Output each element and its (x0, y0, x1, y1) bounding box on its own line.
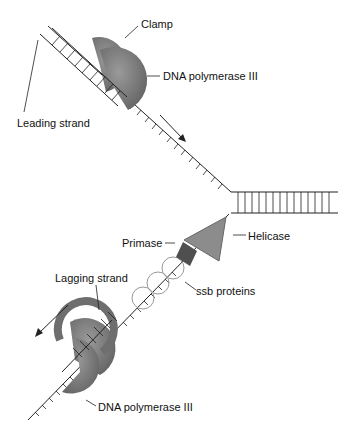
dna-polymerase-top (92, 37, 147, 110)
label-clamp: Clamp (141, 18, 173, 30)
label-leading-strand: Leading strand (17, 117, 90, 129)
parental-duplex (231, 192, 338, 213)
leading-direction-arrow (160, 115, 184, 140)
ssb-proteins (132, 257, 184, 309)
label-ssb-proteins: ssb proteins (196, 285, 255, 297)
label-lagging-strand: Lagging strand (55, 272, 128, 284)
label-dna-polymerase-bottom: DNA polymerase III (98, 401, 193, 413)
label-helicase: Helicase (248, 230, 290, 242)
label-dna-polymerase-top: DNA polymerase III (163, 70, 258, 82)
label-primase: Primase (122, 237, 162, 249)
arrowhead-icon (35, 328, 43, 337)
leading-strand-template (48, 26, 231, 192)
replication-fork-diagram (0, 0, 353, 430)
